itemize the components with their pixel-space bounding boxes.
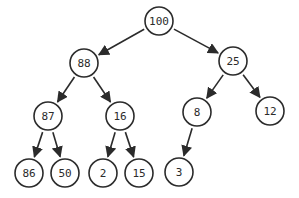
tree-diagram: 1008825871681286502153 <box>0 0 299 198</box>
node-label: 15 <box>132 167 145 180</box>
node-label: 100 <box>149 15 169 28</box>
node-label: 88 <box>77 57 90 70</box>
tree-node: 2 <box>89 159 117 187</box>
edge-arrow <box>184 128 192 155</box>
edge-arrow <box>174 29 218 53</box>
edge-arrow <box>94 77 111 102</box>
node-label: 2 <box>100 167 107 180</box>
edge-arrow <box>58 77 75 102</box>
node-label: 3 <box>176 166 183 179</box>
edge-arrow <box>53 132 60 156</box>
tree-node: 100 <box>145 7 173 35</box>
tree-node: 3 <box>165 158 193 186</box>
edge-arrow <box>99 29 144 54</box>
edge-arrow <box>34 132 42 157</box>
edge-arrow <box>243 75 260 98</box>
node-label: 8 <box>194 106 201 119</box>
tree-node: 87 <box>34 102 62 130</box>
tree-node: 12 <box>256 97 284 125</box>
tree-node: 8 <box>183 98 211 126</box>
tree-node: 86 <box>15 159 43 187</box>
node-label: 16 <box>113 110 126 123</box>
node-label: 86 <box>22 167 35 180</box>
node-label: 87 <box>41 110 54 123</box>
tree-node: 50 <box>51 159 79 187</box>
node-label: 25 <box>226 55 239 68</box>
edge-arrow <box>108 132 115 156</box>
tree-node: 16 <box>106 102 134 130</box>
tree-node: 88 <box>70 49 98 77</box>
edge-arrow <box>207 75 223 98</box>
edge-arrow <box>125 132 133 157</box>
node-label: 12 <box>263 105 276 118</box>
tree-node: 25 <box>219 47 247 75</box>
tree-node: 15 <box>125 159 153 187</box>
node-label: 50 <box>58 167 71 180</box>
nodes-layer: 1008825871681286502153 <box>15 7 284 187</box>
